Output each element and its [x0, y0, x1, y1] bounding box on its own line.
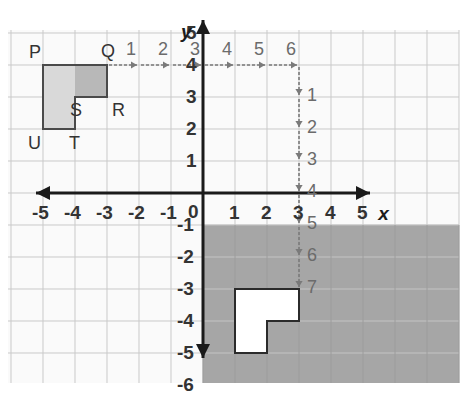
horizontal-count-5: 5 — [254, 40, 264, 58]
horizontal-count-2: 2 — [158, 40, 168, 58]
vertical-count-4: 4 — [307, 182, 317, 200]
x-axis-name: x — [378, 204, 389, 223]
x-tick-label-1: 1 — [229, 203, 240, 222]
y-tick-label-neg2: -2 — [177, 247, 194, 266]
x-tick-label-neg1: -1 — [160, 203, 177, 222]
vertex-label-P: P — [29, 43, 41, 61]
y-tick-label-3: 3 — [186, 87, 197, 106]
vertical-count-1: 1 — [307, 86, 317, 104]
y-axis-arrow-up — [196, 20, 210, 34]
x-tick-label-3: 3 — [293, 203, 304, 222]
vertical-count-7: 7 — [307, 278, 317, 296]
y-tick-label-2: 2 — [186, 119, 197, 138]
y-tick-label-neg6: -6 — [177, 375, 194, 394]
vertex-label-R: R — [112, 101, 125, 119]
x-tick-label-neg2: -2 — [128, 203, 145, 222]
x-tick-label-4: 4 — [325, 203, 336, 222]
vertex-label-S: S — [70, 101, 82, 119]
vertical-count-5: 5 — [307, 214, 317, 232]
coordinate-grid-figure: -5-4-3-2-1123450x54321-1-2-3-4-5-6yPQRST… — [0, 0, 467, 397]
vertical-count-6: 6 — [307, 246, 317, 264]
x-tick-label-2: 2 — [261, 203, 272, 222]
horizontal-count-1: 1 — [126, 40, 136, 58]
horizontal-count-4: 4 — [222, 40, 232, 58]
y-tick-label-neg5: -5 — [177, 343, 194, 362]
vertical-count-2: 2 — [307, 118, 317, 136]
x-tick-label-neg4: -4 — [64, 203, 81, 222]
x-tick-label-neg5: -5 — [32, 203, 49, 222]
y-tick-label-1: 1 — [186, 151, 197, 170]
y-tick-label-neg3: -3 — [177, 279, 194, 298]
y-tick-label-neg4: -4 — [177, 311, 194, 330]
y-tick-label-neg1: -1 — [177, 215, 194, 234]
x-tick-label-neg3: -3 — [96, 203, 113, 222]
vertex-label-T: T — [69, 134, 80, 152]
grid-canvas — [0, 0, 467, 397]
vertex-label-U: U — [28, 134, 41, 152]
preimage-shaded-cell — [75, 65, 107, 97]
x-tick-label-5: 5 — [357, 203, 368, 222]
horizontal-count-3: 3 — [190, 40, 200, 58]
vertical-count-3: 3 — [307, 150, 317, 168]
horizontal-count-6: 6 — [286, 40, 296, 58]
vertex-label-Q: Q — [101, 42, 115, 60]
